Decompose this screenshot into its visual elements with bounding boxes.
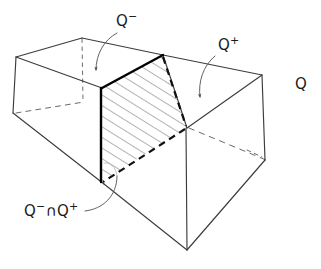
geometry-diagram-svg	[0, 0, 321, 269]
hidden-edge-floor-back-left	[16, 102, 84, 113]
hidden-edge-right-nub	[247, 150, 262, 157]
label-q-intersection-operator: ∩	[46, 202, 57, 220]
box-edge-far-right-vertical	[262, 75, 265, 160]
box-edge-left-vertical	[13, 57, 16, 113]
hidden-edge-floor-right	[189, 128, 266, 160]
leader-q-minus	[96, 33, 117, 70]
label-q: Q	[295, 77, 307, 92]
label-q-plus-superscript: +	[230, 34, 240, 47]
box-edge-top-right-front	[187, 75, 262, 128]
label-q-intersection-sup1: −	[36, 200, 46, 213]
cross-section-hatch-fill	[101, 55, 186, 182]
label-q-base: Q	[295, 75, 307, 93]
hidden-edge-back-vertical	[82, 39, 83, 101]
box-edge-top-back-right	[82, 38, 163, 55]
label-q-minus-base: Q	[116, 12, 128, 30]
label-q-plus: Q+	[218, 38, 240, 53]
box-edge-top-back-left	[16, 38, 82, 57]
box-edge-front-mid-vertical	[186, 128, 187, 250]
leader-q-plus	[200, 56, 215, 97]
box-edge-top-front-left	[16, 57, 102, 88]
box-edge-bottom-left-diagonal	[13, 113, 104, 184]
label-q-intersection: Q−∩Q+	[24, 204, 79, 219]
box-edge-bottom-front-right	[187, 160, 265, 250]
label-q-plus-base: Q	[218, 36, 230, 54]
label-q-intersection-sup2: +	[69, 200, 79, 213]
cross-section-group	[101, 55, 186, 182]
label-q-minus: Q−	[116, 14, 138, 29]
label-q-intersection-base2: Q	[57, 202, 69, 220]
label-q-intersection-base1: Q	[24, 202, 36, 220]
figure-container: Q− Q+ Q Q−∩Q+	[0, 0, 321, 269]
box-edge-bottom-front-left	[104, 184, 187, 250]
label-q-minus-superscript: −	[128, 10, 138, 23]
